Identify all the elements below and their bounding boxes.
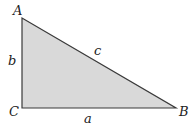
side-label-a: a <box>84 111 92 126</box>
side-label-b: b <box>8 53 16 68</box>
triangle-shape <box>22 18 176 108</box>
vertex-label-a: A <box>12 3 22 18</box>
side-label-c: c <box>94 43 102 58</box>
right-triangle-diagram: A C B b a c <box>0 0 192 126</box>
vertex-label-b: B <box>178 104 189 119</box>
vertex-label-c: C <box>9 104 19 119</box>
